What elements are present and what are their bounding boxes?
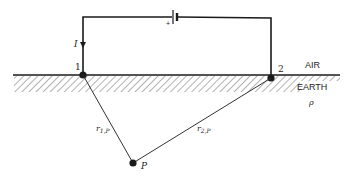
- r2p-label: r2,P: [197, 124, 212, 134]
- circuit-wire-right: [178, 17, 271, 75]
- current-arrow-icon: [80, 42, 86, 48]
- earth-label: EARTH: [297, 82, 327, 92]
- point-p: [129, 159, 136, 166]
- current-label: I: [73, 39, 78, 49]
- r1p-label: r1,P: [96, 124, 111, 134]
- resistivity-label: ρ: [308, 98, 314, 107]
- electrode-diagram: + I 1 2 P r1,P r2,P AIR EARTH ρ: [0, 0, 352, 179]
- battery-icon: [173, 10, 177, 24]
- point-p-label: P: [140, 161, 148, 171]
- electrode-1-label: 1: [75, 62, 81, 72]
- earth-hatching: [14, 76, 340, 92]
- circuit-wire-left: [83, 17, 172, 75]
- air-label: AIR: [305, 60, 321, 70]
- battery-plus-label: +: [166, 20, 170, 27]
- electrode-2-label: 2: [278, 64, 284, 74]
